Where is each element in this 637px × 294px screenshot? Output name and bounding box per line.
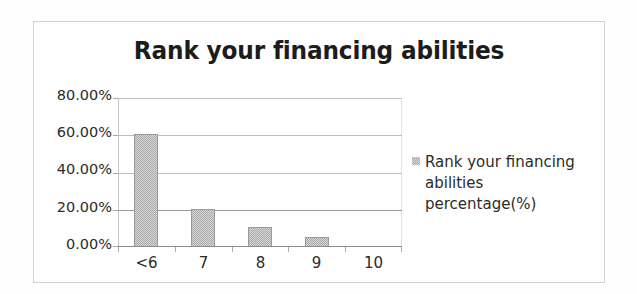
x-axis-label-4: 10 xyxy=(345,254,402,272)
y-axis-tick-label: 0.00% xyxy=(40,237,112,251)
x-tick-mark xyxy=(118,247,119,252)
x-axis-label-3: 9 xyxy=(288,254,345,272)
bar-category-2 xyxy=(248,227,272,246)
scanned-page: Rank your financing abilities 80.00% 60.… xyxy=(0,0,637,294)
bar-category-1 xyxy=(191,209,215,246)
bar-category-0 xyxy=(134,134,158,246)
chart-legend: Rank your financing abilities percentage… xyxy=(412,152,592,215)
x-axis-label-0: <6 xyxy=(118,254,175,272)
y-axis-tick-label: 60.00% xyxy=(40,125,112,139)
legend-label: Rank your financing abilities percentage… xyxy=(425,152,575,215)
bar-category-3 xyxy=(305,237,329,246)
x-axis-label-2: 8 xyxy=(232,254,289,272)
gridline-80 xyxy=(118,98,402,99)
y-axis-tick-label: 40.00% xyxy=(40,162,112,176)
y-axis-tick-label: 20.00% xyxy=(40,200,112,214)
x-tick-mark xyxy=(232,247,233,252)
y-tick-mark xyxy=(113,173,118,174)
legend-label-line-3: percentage(%) xyxy=(425,194,575,215)
y-axis-tick-labels: 80.00% 60.00% 40.00% 20.00% 0.00% xyxy=(40,88,112,258)
chart-title: Rank your financing abilities xyxy=(53,36,585,65)
legend-entry: Rank your financing abilities percentage… xyxy=(412,152,592,215)
x-axis-label-1: 7 xyxy=(175,254,232,272)
plot-area xyxy=(118,98,402,247)
legend-label-line-2: abilities xyxy=(425,173,575,194)
y-tick-mark xyxy=(113,210,118,211)
x-tick-mark xyxy=(288,247,289,252)
x-tick-mark xyxy=(401,247,402,252)
y-tick-mark xyxy=(113,135,118,136)
x-axis-tick-marks xyxy=(118,247,402,253)
y-axis-tick-label: 80.00% xyxy=(40,88,112,102)
gridline-40 xyxy=(118,173,402,174)
gridline-20 xyxy=(118,210,402,211)
legend-swatch-icon xyxy=(412,157,420,165)
x-axis-category-labels: <6 7 8 9 10 xyxy=(118,254,402,276)
y-tick-mark xyxy=(113,98,118,99)
gridline-60 xyxy=(118,135,402,136)
x-tick-mark xyxy=(345,247,346,252)
x-tick-mark xyxy=(175,247,176,252)
legend-label-line-1: Rank your financing xyxy=(425,152,575,173)
